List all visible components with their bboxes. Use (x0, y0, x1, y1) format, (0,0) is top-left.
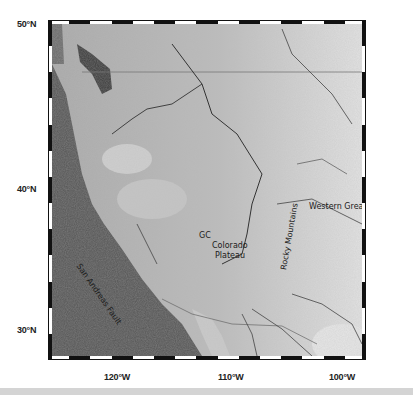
label-gc: GC (199, 231, 211, 240)
label-colorado-plateau-line2: Plateau (215, 251, 245, 260)
lat-label-40n: 40°N (17, 184, 36, 194)
relief-svg (52, 24, 362, 356)
shaded-relief-map[interactable]: San Andreas Fault GC Colorado Plateau Ro… (52, 24, 362, 356)
bottom-strip (0, 388, 413, 395)
frame-left-ticks (48, 20, 52, 360)
lon-label-100w: 100°W (329, 372, 355, 382)
map-frame: San Andreas Fault GC Colorado Plateau Ro… (48, 20, 366, 360)
label-colorado-plateau-line1: Colorado (212, 241, 248, 250)
frame-right-ticks (362, 20, 366, 360)
lon-label-120w: 120°W (104, 372, 130, 382)
lon-label-110w: 110°W (218, 372, 244, 382)
lat-label-30n: 30°N (17, 325, 36, 335)
frame-bottom-ticks (48, 356, 366, 360)
lat-label-50n: 50°N (17, 19, 36, 29)
frame-top-ticks (48, 20, 366, 24)
label-western-great-plains: Western Great Plains (309, 202, 362, 211)
